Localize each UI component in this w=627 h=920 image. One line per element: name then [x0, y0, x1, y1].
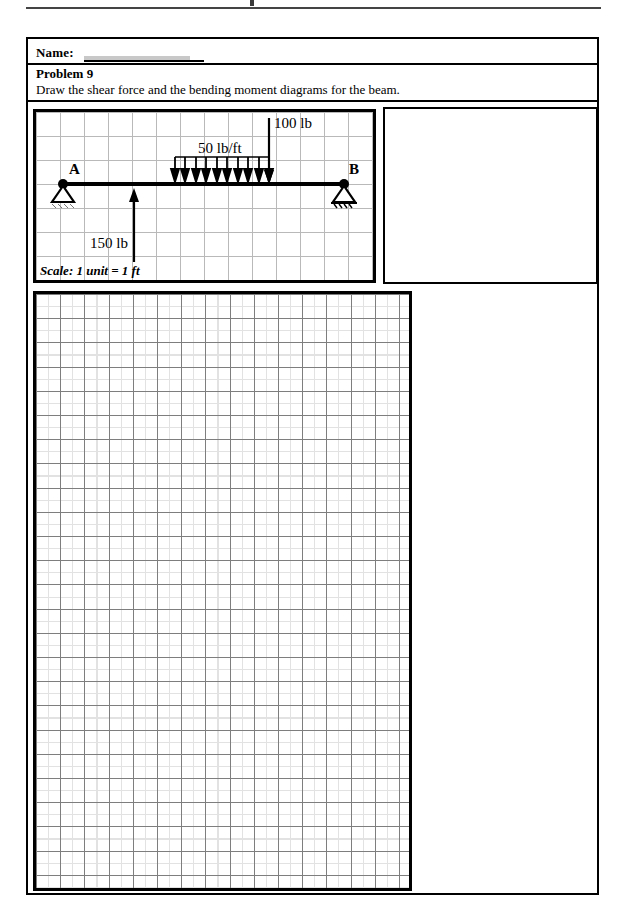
page-top-rule	[26, 7, 601, 9]
name-label: Name:	[36, 45, 74, 61]
name-row: Name:	[28, 39, 597, 65]
scale-note: Scale: 1 unit = 1 ft	[40, 263, 140, 279]
roller-support-hatching	[334, 204, 352, 208]
point-load-150lb-label: 150 lb	[90, 235, 128, 251]
answer-grid[interactable]	[33, 291, 412, 891]
problem-title: Problem 9	[36, 66, 93, 82]
roller-support-icon	[333, 186, 355, 202]
distributed-load-label: 50 lb/ft	[198, 140, 243, 156]
point-load-150lb-arrow	[129, 188, 139, 262]
point-load-100lb-label: 100 lb	[274, 115, 312, 131]
distributed-load-50lbft	[171, 157, 273, 182]
support-a-label: A	[69, 161, 80, 177]
support-b-label: B	[349, 161, 359, 177]
beam-diagram-svg: A B 100 lb 50 lb/ft 150 lb	[36, 112, 373, 280]
pin-support-hatching	[52, 204, 74, 208]
pin-support-icon	[52, 186, 74, 202]
problem-block: Problem 9 Draw the shear force and the b…	[28, 65, 597, 102]
blank-side-panel[interactable]	[383, 107, 598, 284]
problem-instruction: Draw the shear force and the bending mom…	[36, 82, 400, 98]
page-top-rule-stub	[250, 0, 254, 6]
beam-diagram: A B 100 lb 50 lb/ft 150 lb Scale: 1 unit…	[33, 109, 376, 283]
name-input-line[interactable]	[84, 60, 204, 62]
worksheet-frame: Name: Problem 9 Draw the shear force and…	[26, 37, 599, 895]
